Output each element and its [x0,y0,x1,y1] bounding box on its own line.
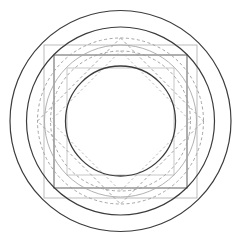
figure-background [0,0,241,244]
figure-root [0,0,241,244]
geometric-figure-canvas [0,0,241,244]
